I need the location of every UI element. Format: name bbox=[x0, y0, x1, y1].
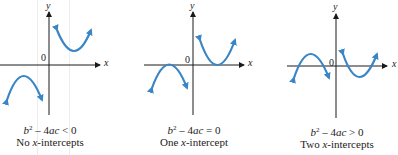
panel-two-intercepts: y x 0 b2 – 4ac > 0 Two x-intercepts bbox=[263, 0, 398, 155]
origin-label: 0 bbox=[185, 54, 190, 65]
origin-label: 0 bbox=[41, 52, 46, 63]
x-axis-label: x bbox=[104, 57, 108, 68]
graph-one-intercept bbox=[130, 0, 265, 120]
y-axis-label: y bbox=[46, 0, 50, 11]
graph-no-intercepts bbox=[0, 0, 135, 120]
y-axis-label: y bbox=[333, 1, 337, 12]
intercept-description: One x-intercept bbox=[144, 136, 244, 148]
caption-one-intercept: b2 – 4ac = 0 One x-intercept bbox=[144, 124, 244, 148]
parabola-lower bbox=[152, 65, 187, 89]
discriminant-formula: b2 – 4ac < 0 bbox=[0, 124, 100, 136]
intercept-description: No x-intercepts bbox=[0, 136, 100, 148]
x-axis-label: x bbox=[392, 58, 396, 69]
intercept-description: Two x-intercepts bbox=[287, 138, 387, 150]
x-axis-label: x bbox=[248, 57, 252, 68]
origin-label: 0 bbox=[329, 57, 334, 68]
caption-no-intercepts: b2 – 4ac < 0 No x-intercepts bbox=[0, 124, 100, 148]
discriminant-formula: b2 – 4ac = 0 bbox=[144, 124, 244, 136]
y-axis-label: y bbox=[190, 0, 194, 11]
caption-two-intercepts: b2 – 4ac > 0 Two x-intercepts bbox=[287, 126, 387, 150]
discriminant-formula: b2 – 4ac > 0 bbox=[287, 126, 387, 138]
parabola-upper bbox=[57, 30, 91, 51]
parabola-upper bbox=[200, 40, 235, 65]
panel-no-intercepts: y x 0 b2 – 4ac < 0 No x-intercepts bbox=[0, 0, 135, 155]
parabola-lower bbox=[7, 76, 42, 100]
panel-one-intercept: y x 0 b2 – 4ac = 0 One x-intercept bbox=[130, 0, 265, 155]
